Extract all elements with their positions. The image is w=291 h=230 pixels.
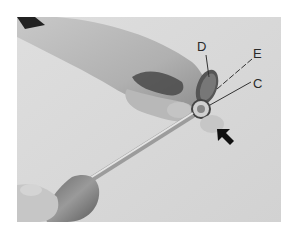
callout-e: E [253,47,262,60]
callout-d: D [197,40,206,53]
photo: D E C [17,17,281,222]
photo-illustration [17,17,281,222]
callout-c: C [253,77,262,90]
